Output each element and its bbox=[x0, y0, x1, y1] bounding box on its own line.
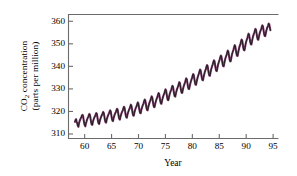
y-tick-label: 330 bbox=[38, 84, 65, 93]
x-tick-label: 90 bbox=[234, 142, 258, 151]
x-axis-label: Year bbox=[68, 158, 278, 168]
y-tick-label: 320 bbox=[38, 107, 65, 116]
y-axis-label: CO2 concentration (parts per million) bbox=[8, 14, 48, 138]
y-tick-label: 360 bbox=[38, 17, 65, 26]
x-tick-label: 65 bbox=[100, 142, 124, 151]
y-axis-label-word: concentration bbox=[19, 41, 29, 92]
y-tick-label: 350 bbox=[38, 39, 65, 48]
x-tick-label: 75 bbox=[153, 142, 177, 151]
x-tick-label: 85 bbox=[207, 142, 231, 151]
y-tick-label: 340 bbox=[38, 62, 65, 71]
x-tick-label: 60 bbox=[73, 142, 97, 151]
x-tick-label: 80 bbox=[180, 142, 204, 151]
y-tick-label: 310 bbox=[38, 129, 65, 138]
x-tick-label: 70 bbox=[127, 142, 151, 151]
x-tick-label: 95 bbox=[261, 142, 285, 151]
co2-concentration-chart: CO2 concentration (parts per million) 31… bbox=[0, 0, 297, 176]
y-axis-label-line-2: (parts per million) bbox=[30, 14, 154, 138]
